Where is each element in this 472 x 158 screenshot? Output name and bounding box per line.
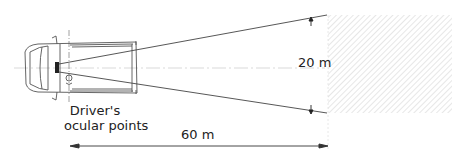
forward-dimension-arrow xyxy=(70,144,328,148)
ocular-points-label: Driver's ocular points xyxy=(64,103,126,133)
sight-lines xyxy=(59,15,327,113)
ocular-label-line2: ocular points xyxy=(64,118,126,133)
ocular-label-line1: Driver's xyxy=(64,103,126,118)
diagram-canvas xyxy=(0,0,472,158)
lateral-distance-label: 20 m xyxy=(298,55,331,70)
hatched-target-area xyxy=(328,15,452,150)
ocular-point-marker xyxy=(55,62,59,73)
forward-distance-label: 60 m xyxy=(181,127,214,142)
